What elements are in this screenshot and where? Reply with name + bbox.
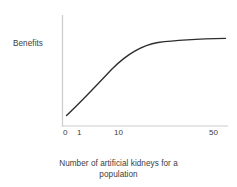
y-axis-label: Benefits <box>13 39 43 49</box>
benefits-curve <box>67 38 226 115</box>
x-tick-label-0: 0 <box>63 128 68 138</box>
x-axis-title-line1: Number of artificial kidneys for a <box>59 159 178 168</box>
chart-figure: Benefits 0 1 10 50 Number of artificial … <box>0 0 237 187</box>
x-tick-label-50: 50 <box>209 128 218 138</box>
x-axis-title: Number of artificial kidneys for a popul… <box>0 158 237 180</box>
x-tick-label-10: 10 <box>114 128 123 138</box>
x-axis-title-line2: population <box>0 169 237 180</box>
x-tick-label-1: 1 <box>77 128 82 138</box>
